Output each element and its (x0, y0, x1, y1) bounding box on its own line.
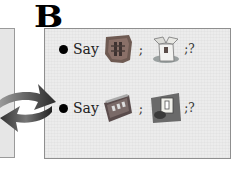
question-mark: ;? (184, 101, 194, 115)
separator: ; (139, 42, 143, 57)
exercise-row: Say ; ;? (59, 92, 195, 124)
say-label: Say (73, 41, 99, 57)
exercise-panel: Say ; ;? Say ; (44, 28, 231, 159)
exercise-row: Say ; ;? (59, 33, 195, 65)
cycle-arrows-icon (0, 82, 58, 144)
train-car-icon (103, 93, 133, 123)
open-box-icon (151, 34, 181, 64)
say-label: Say (73, 100, 99, 116)
bullet-icon (59, 45, 68, 54)
light-switch-icon (151, 93, 181, 123)
question-mark: ;? (184, 42, 194, 56)
bullet-icon (59, 104, 68, 113)
separator: ; (139, 101, 143, 116)
carved-mask-icon (103, 34, 133, 64)
